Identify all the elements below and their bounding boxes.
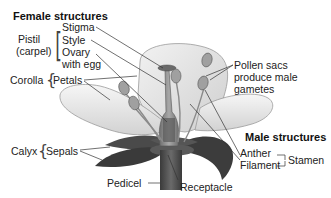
male-structures-heading: Male structures xyxy=(245,131,326,143)
receptacle-label: Receptacle xyxy=(180,182,233,193)
pollen-note-line3: gametes xyxy=(234,84,274,95)
corolla-label: Corolla xyxy=(10,75,43,86)
flower-illustration xyxy=(0,0,331,198)
stigma-label: Stigma xyxy=(62,22,95,33)
calyx-label: Calyx xyxy=(11,146,37,157)
pedicel-label: Pedicel xyxy=(107,178,141,189)
filament-label: Filament xyxy=(240,160,280,171)
anther-label: Anther xyxy=(240,148,271,159)
pistil-label: Pistil xyxy=(18,34,40,45)
sepals-label: Sepals xyxy=(46,146,78,157)
carpel-label: (carpel) xyxy=(16,46,52,57)
ovary-label: Ovary xyxy=(62,47,90,58)
stamen-label: Stamen xyxy=(288,155,324,166)
ovary-label-line2: with egg xyxy=(62,59,101,70)
pistil-brace: [ xyxy=(55,28,62,62)
flower-diagram: Female structures Pistil (carpel) [ Stig… xyxy=(0,0,331,198)
style-label: Style xyxy=(62,35,85,46)
pollen-note-line2: produce male xyxy=(234,72,298,83)
pollen-sacs-label: Pollen sacs xyxy=(234,60,288,71)
petals-label: Petals xyxy=(53,75,82,86)
